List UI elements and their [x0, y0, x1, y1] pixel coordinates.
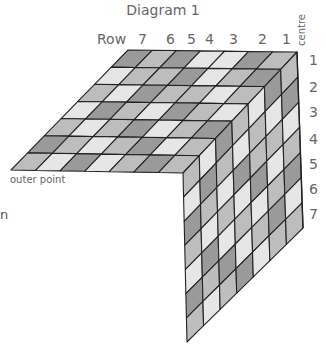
folded-grid-diagram: [0, 0, 326, 353]
